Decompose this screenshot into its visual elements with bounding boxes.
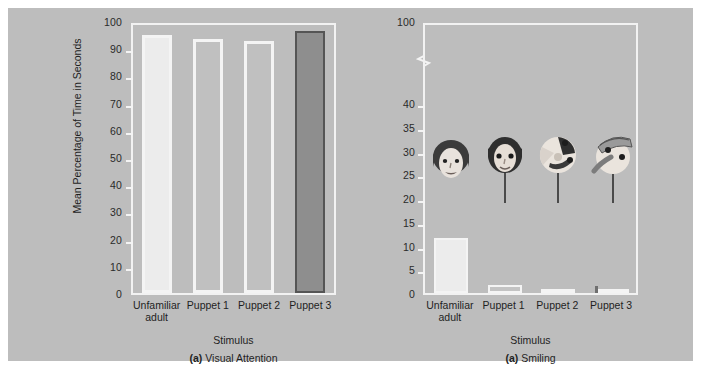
caption-text-a: Visual Attention (205, 352, 277, 364)
x-axis-title-a: Stimulus (131, 334, 336, 346)
x-axis-labels-b: UnfamiliaradultPuppet 1Puppet 2Puppet 3 (423, 299, 638, 323)
y-tick-label: 15 (403, 218, 415, 228)
y-tick (418, 201, 425, 203)
y-tick (126, 160, 133, 162)
caption-marker-a: (a) (190, 352, 203, 364)
bar-marker (595, 286, 598, 293)
x-axis-labels-a: UnfamiliaradultPuppet 1Puppet 2Puppet 3 (131, 299, 336, 323)
y-tick (126, 106, 133, 108)
x-tick-label: Puppet 2 (234, 299, 285, 323)
y-tick-label: 70 (110, 99, 122, 109)
y-tick (126, 242, 133, 244)
y-tick-label: 40 (403, 99, 415, 109)
y-axis-labels-b: 0510152025303540100 (379, 8, 419, 280)
y-tick-label: 20 (403, 194, 415, 204)
y-tick-label: 90 (110, 44, 122, 54)
x-axis-title-b: Stimulus (423, 334, 638, 346)
x-tick-label: Puppet 1 (182, 299, 233, 323)
bar (595, 289, 629, 293)
bar (541, 289, 575, 293)
y-tick-label: 10 (403, 242, 415, 252)
chart-smiling: 0510152025303540100 (353, 8, 693, 361)
y-tick-label: 10 (110, 262, 122, 272)
y-tick (418, 106, 425, 108)
y-tick (418, 225, 425, 227)
y-tick-label: 50 (110, 153, 122, 163)
bar (488, 285, 522, 293)
y-tick (126, 269, 133, 271)
x-tick-label: Puppet 1 (477, 299, 531, 323)
x-tick-label: Puppet 3 (584, 299, 638, 323)
bar (295, 31, 325, 293)
y-tick-label: 80 (110, 71, 122, 81)
y-tick (126, 214, 133, 216)
y-tick-label: 60 (110, 126, 122, 136)
puppet-2-face (535, 133, 581, 209)
chart-visual-attention: Mean Percentage of Time in Seconds 01020… (8, 8, 353, 361)
y-tick (418, 249, 425, 251)
x-tick-label: Puppet 3 (285, 299, 336, 323)
girl-face-photo (428, 137, 474, 191)
y-tick-label: 40 (110, 180, 122, 190)
y-tick-label: 20 (110, 235, 122, 245)
y-tick (418, 272, 425, 274)
bar (193, 39, 223, 293)
y-tick-label: 100 (397, 17, 415, 27)
plot-area-b (423, 23, 638, 295)
y-tick-label: 25 (403, 170, 415, 180)
y-tick (418, 130, 425, 132)
y-tick (126, 78, 133, 80)
y-tick-label: 30 (110, 207, 122, 217)
bar (244, 41, 274, 293)
y-tick (418, 154, 425, 156)
figure-panel: Mean Percentage of Time in Seconds 01020… (8, 8, 693, 361)
y-tick (126, 187, 133, 189)
y-tick-label: 0 (409, 289, 415, 299)
caption-b: (a) Smiling (423, 352, 638, 364)
puppet-1-face (482, 133, 528, 209)
caption-marker-b: (a) (505, 352, 518, 364)
y-tick (418, 177, 425, 179)
plot-area-a (131, 23, 336, 295)
bar (434, 238, 468, 293)
y-axis-labels-a: 0102030405060708090100 (86, 8, 126, 280)
caption-a: (a) Visual Attention (131, 352, 336, 364)
x-tick-label: Unfamiliaradult (131, 299, 182, 323)
x-tick-label: Unfamiliaradult (423, 299, 477, 323)
y-tick-label: 30 (403, 147, 415, 157)
x-tick-label: Puppet 2 (531, 299, 585, 323)
y-tick-label: 100 (104, 17, 122, 27)
y-tick-label: 35 (403, 123, 415, 133)
y-axis-title-a: Mean Percentage of Time in Seconds (71, 11, 83, 241)
y-tick (126, 133, 133, 135)
y-tick-label: 0 (116, 289, 122, 299)
bar (142, 35, 172, 293)
y-tick-label: 5 (409, 265, 415, 275)
caption-text-b: Smiling (521, 352, 555, 364)
y-tick (126, 51, 133, 53)
puppet-3-face (586, 133, 638, 209)
